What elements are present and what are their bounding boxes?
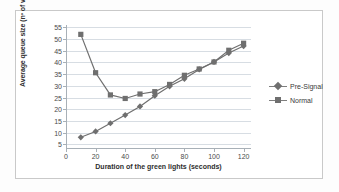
plot-area: 510152025303540455055 020406080100120 (66, 25, 251, 149)
x-tick-mark (96, 149, 97, 152)
x-tick-mark (184, 149, 185, 152)
x-tick-mark (155, 149, 156, 152)
series-line (81, 46, 244, 137)
series-line (81, 34, 244, 98)
data-point-square (197, 66, 202, 71)
x-tick-mark (66, 149, 67, 152)
x-axis-title: Duration of the green lights (seconds) (66, 163, 251, 170)
x-tick-mark (244, 149, 245, 152)
x-tick-label: 120 (238, 153, 250, 160)
y-tick-label: 20 (54, 106, 62, 113)
y-tick-label: 50 (54, 36, 62, 43)
x-tick-mark (214, 149, 215, 152)
data-point-square (137, 91, 142, 96)
data-point-square (152, 89, 157, 94)
chart-figure: Average queue size (nº of vehicles) Dura… (15, 10, 323, 179)
data-point-diamond (78, 134, 84, 140)
y-tick-label: 40 (54, 59, 62, 66)
data-point-diamond (122, 112, 128, 118)
x-tick-mark (125, 149, 126, 152)
square-marker-icon (269, 95, 287, 105)
x-tick-label: 80 (180, 153, 188, 160)
data-point-square (93, 70, 98, 75)
data-point-diamond (107, 120, 113, 126)
legend-item-pre-signal[interactable]: Pre-Signal (269, 79, 323, 93)
chart-legend: Pre-Signal Normal (269, 79, 323, 107)
x-tick-label: 60 (151, 153, 159, 160)
x-tick-label: 20 (92, 153, 100, 160)
y-tick-label: 55 (54, 24, 62, 31)
y-tick-label: 5 (58, 141, 62, 148)
x-tick-label: 0 (64, 153, 68, 160)
data-point-square (78, 32, 83, 37)
y-tick-label: 25 (54, 94, 62, 101)
y-tick-label: 30 (54, 82, 62, 89)
data-point-diamond (93, 128, 99, 134)
x-tick-label: 100 (208, 153, 220, 160)
y-tick-label: 15 (54, 117, 62, 124)
data-point-square (123, 96, 128, 101)
data-point-square (211, 59, 216, 64)
y-tick-label: 10 (54, 129, 62, 136)
y-axis-title: Average queue size (nº of vehicles) (19, 0, 26, 87)
data-point-square (241, 41, 246, 46)
data-point-square (226, 48, 231, 53)
legend-label: Pre-Signal (290, 83, 323, 90)
legend-label: Normal (290, 97, 313, 104)
data-point-square (108, 92, 113, 97)
series-plot (66, 25, 251, 149)
y-tick-label: 35 (54, 71, 62, 78)
data-point-square (182, 73, 187, 78)
data-point-square (167, 82, 172, 87)
legend-item-normal[interactable]: Normal (269, 93, 323, 107)
screenshot-root: Average queue size (nº of vehicles) Dura… (0, 0, 339, 192)
y-tick-label: 45 (54, 47, 62, 54)
x-tick-label: 40 (121, 153, 129, 160)
diamond-marker-icon (269, 81, 287, 91)
